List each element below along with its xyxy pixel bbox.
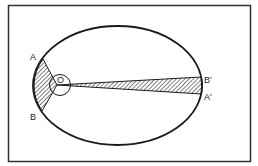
label-b: B (30, 112, 36, 122)
label-b-prime: B' (204, 75, 212, 85)
label-o: O (57, 75, 64, 85)
label-a-prime: A' (204, 92, 212, 102)
sector-a-prime-b-prime (57, 77, 202, 94)
kepler-orbit-diagram: A B O B' A' (0, 0, 258, 166)
label-a: A (30, 52, 36, 62)
